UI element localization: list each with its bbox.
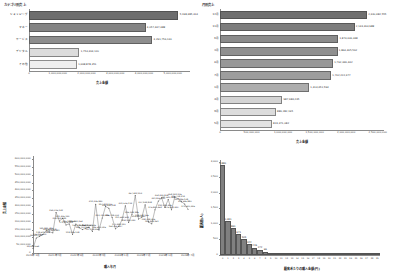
line-point: [56, 212, 57, 213]
bar: [29, 36, 152, 45]
bar-value-label: 2,330,482,555: [368, 14, 386, 17]
line-point-label: 276,830,462: [148, 207, 162, 209]
line-point-label: 106,206,600: [33, 233, 47, 235]
bar-row: 11月2,134,364,988: [220, 23, 384, 31]
histogram-bar-label: 226: [252, 245, 257, 247]
y-tick-label: 1,500: [211, 207, 218, 210]
line-point: [72, 234, 73, 235]
bar: [220, 23, 355, 31]
line-point: [125, 205, 126, 206]
chart-panel-top-right: 月別売上 12月2,330,482,55511月2,134,364,9886月1…: [198, 0, 396, 150]
line-point: [151, 223, 152, 224]
x-tick-label: 24: [349, 257, 352, 259]
x-axis-label-top-left: 売上金額: [96, 82, 108, 85]
line-point: [128, 222, 129, 223]
x-tick-label: 17: [312, 257, 315, 259]
bar: [29, 48, 79, 57]
line-point-label: 307,934,808: [138, 202, 152, 204]
x-tick-label: 2,500,000,000: [369, 132, 387, 135]
x-tick-label: 26: [360, 257, 363, 259]
x-tick-label: 19: [323, 257, 326, 259]
bar-row: 4月987,683,235: [220, 96, 384, 104]
x-tick-label: 8: [265, 257, 266, 259]
line-point-label: 259,016,142: [49, 210, 63, 212]
y-tick-label: 2,500: [211, 176, 218, 179]
line-point: [36, 237, 37, 238]
bar: [220, 96, 282, 104]
x-tick-label: 14: [296, 257, 299, 259]
x-tick-label: 0: [219, 132, 221, 135]
y-tick-label: 50,000,000: [16, 244, 30, 247]
bar-value-label: 4,291,756,161: [154, 39, 172, 42]
line-point: [92, 231, 93, 232]
line-point: [158, 201, 159, 202]
y-tick-label: 100,000,000: [15, 236, 31, 239]
line-point: [188, 209, 189, 210]
bar-row: その他1,668,878,351: [29, 60, 190, 69]
line-point: [65, 224, 66, 225]
line-point: [171, 209, 172, 210]
bar: [220, 71, 331, 79]
y-tick-label: 600,000,000: [15, 158, 31, 161]
x-tick-label: 10: [275, 257, 278, 259]
x-tick-label: 23: [344, 257, 347, 259]
bar-row: 3月1,864,465,562: [220, 47, 384, 55]
bar-category-label: 1月: [214, 86, 219, 89]
bar-category-label: 4月: [214, 98, 219, 101]
bar-row: 7月1,762,222,477: [220, 71, 384, 79]
histogram-bar-label: 96: [264, 249, 267, 251]
x-tick-label: 9: [270, 257, 271, 259]
x-tick-label: 2,000,000,000: [77, 73, 95, 76]
line-point-label: 146,613,026: [92, 227, 106, 229]
x-tick-label: 2023年1月: [115, 255, 129, 258]
bar-category-label: デジタル: [16, 51, 28, 54]
y-tick-label: 300,000,000: [15, 205, 31, 208]
bar-category-label: マネー: [19, 26, 28, 29]
chart-panel-bottom-left: 28,448,56496,522,380106,206,600118,619,4…: [0, 148, 198, 278]
bar: [220, 59, 333, 67]
y-tick-label: 1,000: [211, 223, 218, 226]
bar-value-label: 1,668,878,351: [78, 64, 96, 67]
x-tick-label: 21: [333, 257, 336, 259]
y-tick-label: 2,000: [211, 191, 218, 194]
bar-value-label: 1,792,346,442: [334, 62, 352, 65]
bar-category-label: 7月: [214, 74, 219, 77]
line-point: [135, 195, 136, 196]
x-tick-label: 5: [249, 257, 250, 259]
line-point-label: 279,620,346: [181, 206, 195, 208]
line-point: [95, 204, 96, 205]
bar: [220, 120, 272, 128]
y-tick-label: 450,000,000: [15, 181, 31, 184]
bar-value-label: 4,057,447,488: [147, 26, 165, 29]
x-tick-label: 2022年1月: [70, 255, 84, 258]
line-point: [108, 208, 109, 209]
bar-category-label: ショッピング: [10, 14, 28, 17]
chart-panel-bottom-right: 2,8801,0818616715053442261729605001,0001…: [198, 148, 396, 278]
bar: [29, 60, 77, 69]
histogram-bar-label: 861: [231, 225, 236, 227]
x-tick-label: 2022年7月: [92, 255, 106, 258]
y-tick-label: 200,000,000: [15, 220, 31, 223]
bar-category-label: 3月: [214, 50, 219, 53]
y-tick-label: 150,000,000: [15, 228, 31, 231]
y-tick-label: 0: [216, 254, 218, 257]
line-point: [138, 219, 139, 220]
line-point-label: 186,448,261: [145, 221, 159, 223]
histogram-bar-label: 2,880: [219, 162, 226, 164]
bar-category-label: その他: [19, 63, 28, 66]
y-tick-label: 400,000,000: [15, 189, 31, 192]
line-point: [168, 199, 169, 200]
bar: [220, 108, 276, 116]
plot-area-top-right: 12月2,330,482,55511月2,134,364,9886月1,874,…: [220, 9, 384, 130]
bar-category-label: 9月: [214, 111, 219, 114]
line-point-label: 312,546,880: [178, 201, 192, 203]
x-axis-label-top-right: 売上金額: [296, 141, 308, 144]
histogram-bar-label: 172: [258, 247, 263, 249]
bar-value-label: 1,874,446,448: [339, 38, 357, 41]
bar-value-label: 823,371,082: [273, 123, 289, 126]
y-tick-label: 500,000,000: [15, 174, 31, 177]
chart-panel-top-left: カテゴリ別売上 ショッピング5,198,385,413マネー4,057,447,…: [0, 0, 198, 96]
bar: [220, 47, 338, 55]
y-tick-label: 250,000,000: [15, 213, 31, 216]
bar-row: サービス4,291,756,161: [29, 36, 190, 45]
